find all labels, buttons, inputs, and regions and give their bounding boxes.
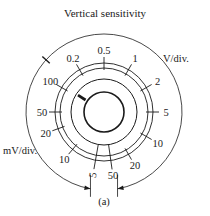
millivolts-per-div-label: mV/div. bbox=[3, 145, 37, 156]
scale-tick bbox=[140, 85, 151, 92]
scale-inner-ring bbox=[60, 68, 148, 156]
scale-labels: 0.512510205051020501000.2 bbox=[37, 45, 169, 181]
scale-tick bbox=[140, 133, 151, 140]
arrowhead-icon bbox=[118, 186, 124, 190]
scale-tick bbox=[69, 144, 77, 154]
figure-caption: (a) bbox=[98, 196, 110, 208]
scale-tick bbox=[125, 64, 132, 75]
scale-label: 10 bbox=[59, 154, 70, 165]
scale-label: 50 bbox=[108, 170, 119, 181]
scale-label: 2 bbox=[155, 76, 160, 87]
scale-label: 0.2 bbox=[66, 53, 79, 64]
knob-pointer bbox=[78, 95, 86, 100]
knob-skirt-ring bbox=[71, 79, 137, 145]
scale-outer-ring bbox=[55, 63, 153, 161]
scale-label: 100 bbox=[42, 76, 58, 87]
scale-label: 1 bbox=[132, 53, 137, 64]
volts-per-div-label: V/div. bbox=[163, 53, 189, 64]
scale-tick bbox=[77, 64, 84, 75]
arrowhead-icon bbox=[84, 186, 90, 190]
scale-label: 20 bbox=[40, 128, 51, 139]
scale-tick bbox=[94, 144, 98, 169]
knob-inner-ring bbox=[84, 92, 124, 132]
scale-label: 10 bbox=[152, 138, 163, 149]
scale-ticks bbox=[49, 57, 159, 169]
scale-tick bbox=[109, 145, 112, 170]
scale-label: 5 bbox=[163, 107, 168, 118]
scale-label: 20 bbox=[130, 160, 141, 171]
diagram-title: Vertical sensitivity bbox=[64, 7, 147, 19]
scale-tick bbox=[125, 148, 132, 159]
vertical-sensitivity-diagram: Vertical sensitivity 0.51251020505102050… bbox=[0, 0, 210, 216]
scale-label: 50 bbox=[37, 107, 48, 118]
scale-label: 0.5 bbox=[97, 45, 110, 56]
scale-label: 5 bbox=[87, 171, 99, 178]
